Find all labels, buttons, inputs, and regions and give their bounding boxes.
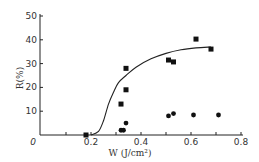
y-tick-label: 50 — [26, 11, 38, 21]
x-axis-title: W (J/cm²) — [109, 148, 152, 158]
square-marker — [171, 59, 176, 64]
y-tick-label: 30 — [26, 59, 38, 69]
circle-marker — [216, 113, 221, 118]
circle-marker — [171, 111, 176, 116]
square-marker — [119, 102, 124, 107]
x-tick-label: 0.8 — [234, 137, 249, 147]
y-axis-title: R(%) — [15, 67, 25, 89]
square-marker — [209, 47, 214, 52]
square-marker — [124, 66, 129, 71]
x-tick-label: 0.4 — [134, 137, 149, 147]
origin-label: 0 — [30, 137, 36, 147]
square-marker — [166, 58, 171, 63]
scatter-chart: 1020304050 0.20.40.60.8 0 W (J/cm²) R(%) — [0, 0, 259, 162]
square-marker — [84, 133, 89, 138]
x-tick-label: 0.6 — [184, 137, 199, 147]
fit-curve-path — [91, 47, 211, 135]
x-tick-label: 0.2 — [84, 137, 98, 147]
circle-marker — [191, 113, 196, 118]
circle-marker — [124, 121, 129, 126]
y-tick-label: 10 — [26, 106, 38, 116]
y-tick-label: 40 — [26, 35, 38, 45]
axes — [40, 14, 243, 135]
y-tick-label: 20 — [26, 82, 38, 92]
fit-curve — [91, 47, 211, 135]
data-points — [84, 37, 221, 138]
square-marker — [124, 87, 129, 92]
circle-marker — [121, 128, 126, 133]
square-marker — [194, 37, 199, 42]
circle-marker — [166, 114, 171, 119]
